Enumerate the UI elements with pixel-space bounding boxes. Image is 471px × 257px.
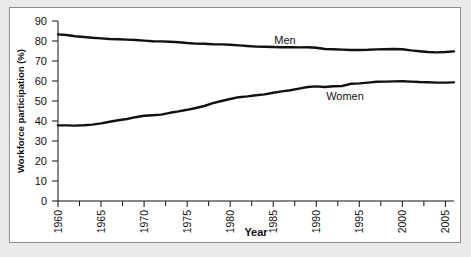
x-tick-label: 2000 xyxy=(396,210,408,234)
workforce-participation-line-chart: 9080706050403020100 19601965197019751980… xyxy=(10,8,460,242)
series-annotation-men: Men xyxy=(274,34,295,46)
x-tick-label: 1970 xyxy=(138,210,150,234)
x-tick-label: 1975 xyxy=(181,210,193,234)
y-tick-label: 80 xyxy=(35,35,47,47)
y-tick-label: 20 xyxy=(35,155,47,167)
y-tick-label: 90 xyxy=(35,15,47,27)
chart-page: 9080706050403020100 19601965197019751980… xyxy=(0,0,471,257)
figure-frame: 9080706050403020100 19601965197019751980… xyxy=(9,7,461,243)
x-tick-label: 1960 xyxy=(52,210,64,234)
y-tick-label: 60 xyxy=(35,75,47,87)
y-axis-label: Workforce participation (%) xyxy=(15,49,26,173)
y-tick-labels: 9080706050403020100 xyxy=(35,15,47,207)
x-tick-label: 1985 xyxy=(267,210,279,234)
series-line-women xyxy=(58,81,454,125)
y-tick-label: 10 xyxy=(35,175,47,187)
x-tick-label: 1995 xyxy=(353,210,365,234)
x-tick-label: 2005 xyxy=(439,210,451,234)
x-tick-label: 1990 xyxy=(310,210,322,234)
y-axis: 9080706050403020100 xyxy=(35,15,58,207)
x-axis-label: Year xyxy=(244,226,268,238)
y-tick-label: 50 xyxy=(35,95,47,107)
y-tick-label: 40 xyxy=(35,115,47,127)
x-tick-label: 1965 xyxy=(95,210,107,234)
x-minor-tick-marks xyxy=(80,201,424,206)
y-tick-marks xyxy=(52,21,58,201)
y-tick-label: 0 xyxy=(41,195,47,207)
series-annotation-women: Women xyxy=(326,90,364,102)
data-series-group xyxy=(58,34,454,125)
y-tick-label: 30 xyxy=(35,135,47,147)
series-line-men xyxy=(58,34,454,52)
x-tick-label: 1980 xyxy=(224,210,236,234)
y-tick-label: 70 xyxy=(35,55,47,67)
